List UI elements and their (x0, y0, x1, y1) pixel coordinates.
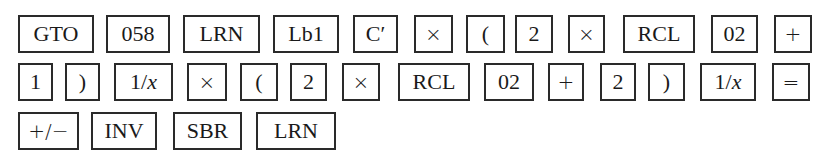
key-label: 02 (498, 71, 520, 93)
plus-key[interactable]: + (774, 15, 812, 53)
rcl-key[interactable]: RCL (398, 63, 470, 101)
key-label: LRN (200, 23, 244, 45)
rcl-key[interactable]: RCL (623, 15, 695, 53)
multiply-key[interactable]: × (568, 15, 605, 53)
multiply-key[interactable]: × (414, 15, 453, 53)
equals-key[interactable]: = (772, 63, 810, 101)
02-key[interactable]: 02 (484, 63, 534, 101)
lrn-key[interactable]: LRN (183, 15, 260, 53)
inv-key[interactable]: INV (91, 112, 157, 150)
lrn-key[interactable]: LRN (256, 112, 336, 150)
close-paren-key[interactable]: ) (65, 63, 100, 101)
reciprocal-key[interactable]: 1/x (700, 63, 756, 101)
2-key[interactable]: 2 (290, 63, 327, 101)
open-paren-key[interactable]: ( (240, 63, 278, 101)
multiply-key[interactable]: × (342, 63, 380, 101)
key-label: × (425, 24, 442, 44)
key-label: RCL (413, 71, 456, 93)
key-label: SBR (187, 120, 229, 142)
open-paren-key[interactable]: ( (466, 15, 505, 53)
plus-key[interactable]: + (548, 63, 584, 101)
key-label: 2 (529, 23, 540, 45)
reciprocal-key[interactable]: 1/x (114, 63, 173, 101)
key-label: 1 (30, 71, 41, 93)
key-label: ( (482, 23, 489, 45)
key-label: +/− (28, 121, 68, 141)
key-label: 02 (724, 23, 746, 45)
2-key[interactable]: 2 (600, 63, 636, 101)
change-sign-key[interactable]: +/− (18, 112, 79, 150)
key-label: × (353, 72, 370, 92)
key-label: GTO (34, 23, 79, 45)
2-key[interactable]: 2 (515, 15, 553, 53)
key-label: + (785, 24, 802, 44)
close-paren-key[interactable]: ) (648, 63, 685, 101)
key-label: INV (104, 120, 143, 142)
key-label: LRN (274, 120, 318, 142)
key-label: Lb1 (288, 23, 323, 45)
gto-key[interactable]: GTO (18, 15, 94, 53)
02-key[interactable]: 02 (711, 15, 758, 53)
multiply-key[interactable]: × (187, 63, 227, 101)
sbr-key[interactable]: SBR (173, 112, 242, 150)
key-label: 2 (613, 71, 624, 93)
key-label: + (558, 72, 575, 92)
058-key[interactable]: 058 (106, 15, 170, 53)
key-label: 1/x (715, 71, 742, 93)
key-label: 058 (122, 23, 155, 45)
key-label: ( (255, 71, 262, 93)
key-label: RCL (638, 23, 681, 45)
key-label: = (783, 72, 800, 92)
key-label: ) (79, 71, 86, 93)
1-key[interactable]: 1 (18, 63, 53, 101)
key-label: C′ (366, 23, 386, 45)
key-label: 2 (303, 71, 314, 93)
c-prime-key[interactable]: C′ (353, 15, 398, 53)
key-label: ) (663, 71, 670, 93)
lb1-key[interactable]: Lb1 (273, 15, 339, 53)
key-label: × (199, 72, 216, 92)
key-label: 1/x (130, 71, 157, 93)
key-label: × (578, 24, 595, 44)
